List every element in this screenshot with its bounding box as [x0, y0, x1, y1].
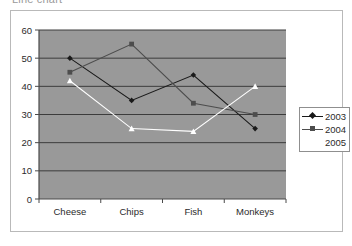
y-axis-tick-label: 30 — [21, 109, 32, 120]
chart-figure-frame: 0102030405060CheeseChipsFishMonkeys 2003… — [10, 10, 343, 232]
x-axis-tick-label: Cheese — [54, 206, 87, 217]
series-marker-2004 — [253, 112, 258, 117]
y-axis-tick-label: 20 — [21, 137, 32, 148]
line-chart: 0102030405060CheeseChipsFishMonkeys — [11, 11, 344, 233]
x-axis-tick-label: Fish — [184, 206, 202, 217]
series-marker-2004 — [129, 42, 134, 47]
series-marker-2004 — [191, 101, 196, 106]
legend-item-2003[interactable]: 2003 — [300, 110, 349, 123]
legend-marker-triangle-icon — [302, 137, 323, 148]
y-axis-tick-label: 0 — [27, 194, 32, 205]
legend-item-2005[interactable]: 2005 — [300, 136, 349, 149]
legend-label-2005: 2005 — [323, 137, 346, 148]
legend-label-2004: 2004 — [323, 124, 346, 135]
legend-marker-diamond-icon — [302, 111, 323, 122]
page-title: Line chart — [12, 0, 62, 5]
y-axis-tick-label: 60 — [21, 25, 32, 36]
y-axis-tick-label: 40 — [21, 81, 32, 92]
legend-item-2004[interactable]: 2004 — [300, 123, 349, 136]
legend-marker-square-icon — [302, 124, 323, 135]
series-marker-2004 — [67, 70, 72, 75]
y-axis-tick-label: 10 — [21, 165, 32, 176]
x-axis-tick-label: Chips — [119, 206, 144, 217]
chart-legend: 2003 2004 2005 — [299, 107, 350, 152]
x-axis-tick-label: Monkeys — [236, 206, 274, 217]
y-axis-tick-label: 50 — [21, 53, 32, 64]
legend-label-2003: 2003 — [323, 111, 346, 122]
